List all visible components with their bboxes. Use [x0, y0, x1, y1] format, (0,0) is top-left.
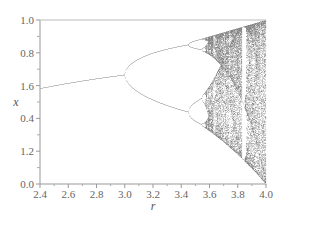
svg-text:3.4: 3.4: [174, 188, 188, 200]
svg-text:2.8: 2.8: [90, 188, 104, 200]
data-points: [40, 20, 267, 185]
svg-text:0.4: 0.4: [20, 112, 34, 124]
x-axis-label: r: [151, 199, 156, 213]
bifurcation-chart: 2.42.62.83.03.23.43.63.84.0 1.00.81.60.4…: [0, 0, 316, 226]
svg-text:3.6: 3.6: [203, 188, 217, 200]
svg-text:3.8: 3.8: [231, 188, 245, 200]
svg-text:2.6: 2.6: [61, 188, 75, 200]
svg-text:1.2: 1.2: [20, 145, 34, 157]
y-axis-label: x: [12, 95, 19, 109]
svg-text:0.8: 0.8: [20, 47, 34, 59]
svg-text:1.0: 1.0: [20, 14, 34, 26]
y-ticks: 1.00.81.60.41.20.0: [20, 14, 40, 190]
svg-text:3.0: 3.0: [118, 188, 132, 200]
svg-text:1.6: 1.6: [20, 80, 34, 92]
svg-text:4.0: 4.0: [259, 188, 273, 200]
x-ticks: 2.42.62.83.03.23.43.63.84.0: [33, 184, 273, 200]
svg-text:0.0: 0.0: [20, 178, 34, 190]
svg-text:2.4: 2.4: [33, 188, 47, 200]
